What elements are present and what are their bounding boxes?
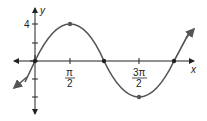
x-tick-label-pi2-num: π bbox=[66, 67, 73, 78]
x-axis-label: x bbox=[190, 64, 197, 75]
sine-curve bbox=[43, 20, 71, 42]
y-axis-label: y bbox=[39, 5, 46, 16]
y-tick-label-4: 4 bbox=[24, 19, 30, 30]
sine-graph: y x 4 π 2 3π 2 bbox=[0, 0, 207, 121]
x-tick-label-pi2-den: 2 bbox=[67, 78, 73, 89]
chart-canvas: y x 4 π 2 3π 2 bbox=[0, 0, 207, 121]
x-tick-label-3pi2-num: 3π bbox=[133, 67, 146, 78]
x-tick-label-3pi2-den: 2 bbox=[136, 78, 142, 89]
